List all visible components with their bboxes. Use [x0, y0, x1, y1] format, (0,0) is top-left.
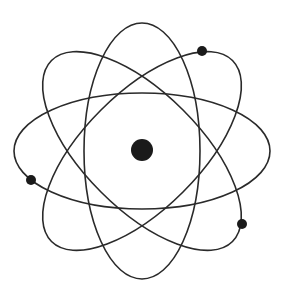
nucleus	[131, 139, 153, 161]
atom-icon	[0, 0, 286, 294]
atom-diagram: Atom model	[0, 0, 286, 294]
electron	[26, 175, 36, 185]
electron	[237, 219, 247, 229]
nucleus-group	[131, 139, 153, 161]
electron	[197, 46, 207, 56]
